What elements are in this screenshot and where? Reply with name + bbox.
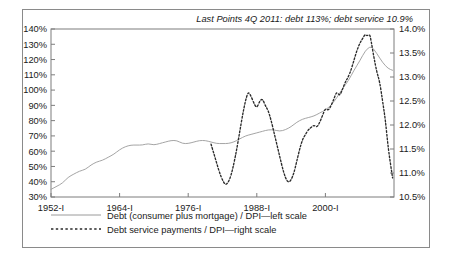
- legend-label: Debt (consumer plus mortgage) / DPI—left…: [107, 211, 307, 221]
- left-tick-label: 130%: [23, 40, 47, 50]
- series-group: [51, 35, 393, 190]
- x-tick-label: 2000-I: [312, 203, 338, 213]
- left-tick-label: 100%: [23, 85, 47, 95]
- left-tick-label: 110%: [24, 70, 47, 80]
- series-debt-service-line: [211, 35, 393, 185]
- x-tick-label: 1952-I: [38, 203, 64, 213]
- right-tick-label: 12.5%: [399, 96, 425, 106]
- left-tick-label: 120%: [23, 55, 47, 65]
- right-tick-label: 11.5%: [399, 144, 425, 154]
- right-axis-ticks: 10.5%11.0%11.5%12.0%12.5%13.0%13.5%14.0%: [390, 24, 425, 202]
- right-tick-label: 11.0%: [399, 168, 425, 178]
- left-tick-label: 70%: [28, 131, 47, 141]
- right-tick-label: 12.0%: [399, 120, 425, 130]
- left-tick-label: 90%: [28, 101, 47, 111]
- chart-legend: Debt (consumer plus mortgage) / DPI—left…: [51, 211, 307, 235]
- right-tick-label: 13.5%: [399, 48, 425, 58]
- plot-border: [51, 29, 394, 197]
- left-tick-label: 140%: [23, 24, 47, 34]
- left-axis-ticks: 30%40%50%60%70%80%90%100%110%120%130%140…: [23, 24, 55, 202]
- right-tick-label: 14.0%: [399, 24, 425, 34]
- left-tick-label: 80%: [28, 116, 47, 126]
- right-tick-label: 13.0%: [399, 72, 425, 82]
- left-tick-label: 60%: [28, 147, 47, 157]
- left-tick-label: 40%: [28, 177, 47, 187]
- legend-label: Debt service payments / DPI—right scale: [107, 225, 276, 235]
- left-tick-label: 30%: [28, 192, 47, 202]
- chart-figure: Last Points 4Q 2011: debt 113%; debt ser…: [22, 9, 430, 248]
- chart-canvas: 30%40%50%60%70%80%90%100%110%120%130%140…: [23, 10, 431, 249]
- right-tick-label: 10.5%: [399, 192, 425, 202]
- left-tick-label: 50%: [28, 162, 47, 172]
- series-debt-line: [51, 47, 393, 189]
- plot-frame: [51, 29, 394, 197]
